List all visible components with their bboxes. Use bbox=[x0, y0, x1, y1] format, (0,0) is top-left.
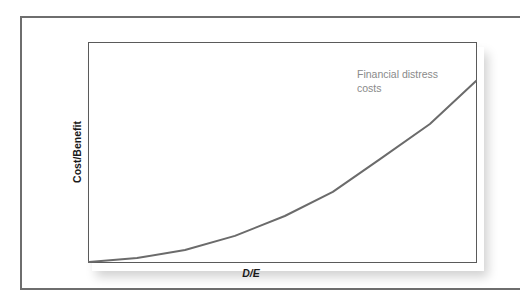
series-label-line-2: costs bbox=[357, 81, 438, 95]
y-axis-label: Cost/Benefit bbox=[71, 121, 83, 183]
series-label-line-1: Financial distress bbox=[357, 67, 438, 81]
series-label: Financial distress costs bbox=[357, 67, 438, 95]
financial-distress-costs-line bbox=[89, 81, 476, 262]
x-axis-label: D/E bbox=[242, 267, 260, 279]
